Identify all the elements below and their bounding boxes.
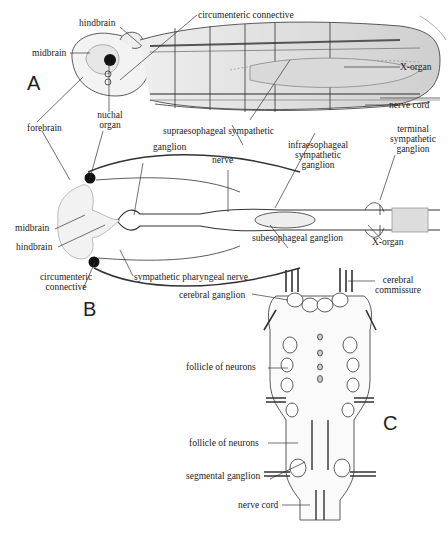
panel-b-drawing	[58, 155, 440, 286]
label-infraesophageal-line3: ganglion	[283, 160, 353, 170]
label-nuchal-organ-line2: organ	[93, 120, 127, 130]
label-circumenteric-line2: connective	[32, 282, 100, 292]
label-circumenteric-connective-b: circumenteric connective	[32, 272, 100, 292]
label-segmental-ganglion: segmental ganglion	[186, 471, 260, 481]
label-circumenteric-line1: circumenteric	[32, 272, 100, 282]
label-cerebral-commissure-line1: cerebral	[367, 275, 429, 285]
label-infraesophageal-sympathetic-ganglion: infraesophageal sympathetic ganglion	[283, 140, 353, 170]
anatomy-drawing	[0, 0, 448, 534]
panel-c-drawing	[264, 268, 376, 520]
label-terminal-sympathetic-ganglion: terminal sympathetic ganglion	[383, 124, 443, 154]
label-nerve-cord-c: nerve cord	[238, 500, 278, 510]
panel-label-a: A	[27, 72, 40, 95]
panel-label-c: C	[383, 412, 397, 435]
label-subesophageal-ganglion: subesophageal ganglion	[252, 233, 343, 243]
label-cerebral-ganglion: cerebral ganglion	[179, 290, 245, 300]
panel-label-b: B	[83, 298, 96, 321]
label-nuchal-organ-line1: nuchal	[93, 110, 127, 120]
label-follicle-of-neurons-lower: follicle of neurons	[189, 438, 259, 448]
label-midbrain-a: midbrain	[32, 48, 66, 58]
label-nerve-b: nerve	[212, 155, 233, 165]
label-terminal-line1: terminal	[383, 124, 443, 134]
label-x-organ-a: X-organ	[400, 62, 431, 72]
label-circumenteric-connective-a: circumenteric connective	[198, 10, 294, 20]
label-nuchal-organ: nuchal organ	[93, 110, 127, 130]
label-terminal-line2: sympathetic	[383, 134, 443, 144]
label-midbrain-b: midbrain	[15, 223, 49, 233]
label-x-organ-b: X-organ	[372, 237, 403, 247]
label-ganglion-b: ganglion	[153, 142, 186, 152]
panel-a-drawing	[72, 16, 446, 112]
label-infraesophageal-line1: infraesophageal	[283, 140, 353, 150]
label-cerebral-commissure-line2: commissure	[367, 285, 429, 295]
label-forebrain-a: forebrain	[27, 123, 62, 133]
label-hindbrain-b: hindbrain	[16, 242, 52, 252]
label-infraesophageal-line2: sympathetic	[283, 150, 353, 160]
figure-canvas: A B C hindbrain circumenteric connective…	[0, 0, 448, 534]
label-supraesophageal-sympathetic: supraesophageal sympathetic	[163, 126, 274, 136]
label-terminal-line3: ganglion	[383, 144, 443, 154]
label-nerve-cord-a: nerve cord	[389, 100, 429, 110]
label-follicle-of-neurons-upper: follicle of neurons	[186, 362, 256, 372]
label-cerebral-commissure: cerebral commissure	[367, 275, 429, 295]
label-hindbrain-a: hindbrain	[79, 18, 115, 28]
label-sympathetic-pharyngeal-nerve: sympathetic pharyngeal nerve	[134, 272, 248, 282]
